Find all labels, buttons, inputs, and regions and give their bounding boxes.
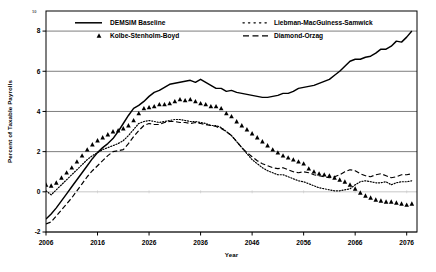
x-tick-label: 2016 bbox=[90, 239, 105, 246]
legend-label: Liebman-MacGuiness-Samwick bbox=[274, 19, 373, 26]
x-tick-label: 2006 bbox=[39, 239, 54, 246]
y-tick-label: 4 bbox=[37, 108, 41, 115]
y-axis-title: Percent of Taxable Payrolls bbox=[6, 80, 13, 164]
legend-label: Diamond-Orzag bbox=[274, 32, 323, 40]
taxable-payroll-projection-chart: -20246820062016202620362046205620662076Y… bbox=[0, 0, 436, 272]
y-tick-label: 2 bbox=[37, 148, 41, 155]
x-tick-label: 2056 bbox=[296, 239, 311, 246]
y-tick-label: -2 bbox=[35, 228, 41, 235]
y-tick-label: 8 bbox=[37, 27, 41, 34]
legend-label: Kolbe-Stenholm-Boyd bbox=[110, 32, 179, 40]
x-tick-label: 2046 bbox=[245, 239, 260, 246]
axis-corner-label: 10 bbox=[32, 9, 37, 14]
y-tick-label: 0 bbox=[37, 188, 41, 195]
y-tick-label: 6 bbox=[37, 68, 41, 75]
x-tick-label: 2066 bbox=[348, 239, 363, 246]
x-axis-title: Year bbox=[225, 251, 239, 258]
chart-container: -20246820062016202620362046205620662076Y… bbox=[0, 0, 436, 272]
legend-label: DEMSIM Baseline bbox=[110, 19, 166, 26]
x-tick-label: 2026 bbox=[142, 239, 157, 246]
x-tick-label: 2036 bbox=[193, 239, 208, 246]
x-tick-label: 2076 bbox=[399, 239, 414, 246]
